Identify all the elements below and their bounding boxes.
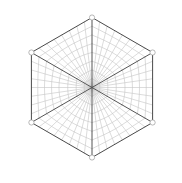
vertex-marker-v4: [89, 155, 94, 160]
vertex-marker-v3: [150, 120, 155, 125]
vertex-marker-v1: [89, 15, 94, 20]
vertex-marker-v5: [29, 120, 34, 125]
figure-root: [0, 0, 182, 183]
vertex-marker-v6: [29, 50, 34, 55]
vertex-marker-v2: [150, 50, 155, 55]
hexagon-mesh-figure: [0, 0, 182, 183]
